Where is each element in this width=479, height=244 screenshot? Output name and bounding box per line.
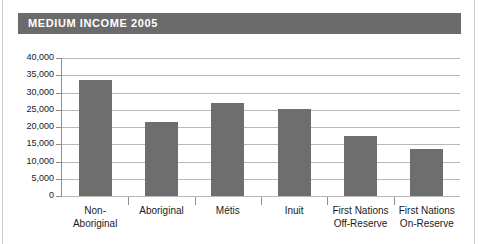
gridline	[62, 127, 460, 128]
category-label-line: First Nations	[327, 204, 393, 217]
category-label: Non-Aboriginal	[62, 204, 128, 230]
y-axis-tick-label: 5,000	[0, 173, 54, 183]
gridline	[62, 58, 460, 59]
plot-area	[62, 58, 460, 196]
chart-title-banner: MEDIUM INCOME 2005	[18, 13, 461, 34]
category-label: Inuit	[261, 204, 327, 217]
y-axis-tick-label: 40,000	[0, 52, 54, 62]
category-label-line: Non-	[62, 204, 128, 217]
category-label: First NationsOff-Reserve	[327, 204, 393, 230]
page-rule-right	[474, 0, 475, 244]
gridline	[62, 162, 460, 163]
y-axis-labels: 05,00010,00015,00020,00025,00030,00035,0…	[0, 0, 54, 244]
gridline	[62, 110, 460, 111]
bar	[79, 80, 112, 196]
category-label-line: Aboriginal	[62, 217, 128, 230]
category-label: First NationsOn-Reserve	[394, 204, 460, 230]
bar	[410, 149, 443, 196]
y-axis-tick-label: 10,000	[0, 156, 54, 166]
bar	[211, 103, 244, 196]
category-label-line: Métis	[195, 204, 261, 217]
category-label: Aboriginal	[128, 204, 194, 217]
y-axis-tick-label: 25,000	[0, 104, 54, 114]
y-axis-tick-label: 15,000	[0, 138, 54, 148]
y-axis-tick-label: 20,000	[0, 121, 54, 131]
chart-figure: MEDIUM INCOME 2005 05,00010,00015,00020,…	[0, 0, 479, 244]
y-axis-tick-label: 30,000	[0, 87, 54, 97]
bar	[344, 136, 377, 196]
y-axis-tick-label: 35,000	[0, 69, 54, 79]
gridline	[62, 179, 460, 180]
gridline	[62, 93, 460, 94]
gridline	[62, 75, 460, 76]
category-label-line: Aboriginal	[128, 204, 194, 217]
bar	[278, 109, 311, 196]
bar	[145, 122, 178, 196]
category-label-line: Inuit	[261, 204, 327, 217]
y-axis-tick-label: 0	[0, 190, 54, 200]
category-axis: Non-AboriginalAboriginalMétisInuitFirst …	[62, 197, 460, 244]
category-label: Métis	[195, 204, 261, 217]
gridline	[62, 144, 460, 145]
category-label-line: Off-Reserve	[327, 217, 393, 230]
category-label-line: On-Reserve	[394, 217, 460, 230]
category-label-line: First Nations	[394, 204, 460, 217]
